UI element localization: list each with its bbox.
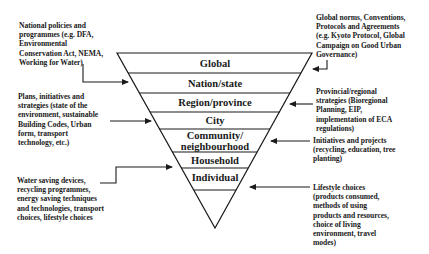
note-national-policies: National policies and programmes (e.g. D… (19, 21, 129, 67)
note-global-norms: Global norms, Conventions, Protocols and… (316, 13, 429, 59)
level-community: Community/ neighbourhood (160, 130, 270, 152)
note-water-saving: Water saving devices, recycling programm… (17, 176, 137, 222)
level-nation-state: Nation/state (160, 78, 270, 89)
note-initiatives-projects: Initiatives and projects (recycling, edu… (313, 136, 429, 164)
level-household: Household (160, 155, 270, 166)
level-global: Global (160, 58, 270, 69)
note-lifestyle-choices: Lifestyle choices (products consumed, me… (313, 183, 429, 247)
note-plans-initiatives: Plans, initiatives and strategies (state… (18, 92, 128, 147)
note-provincial-strategies: Provincial/regional strategies (Bioregio… (316, 87, 429, 133)
level-individual: Individual (160, 172, 270, 183)
level-city: City (160, 115, 270, 126)
arrow-global-norms (313, 60, 327, 69)
level-region-province: Region/province (160, 97, 270, 108)
